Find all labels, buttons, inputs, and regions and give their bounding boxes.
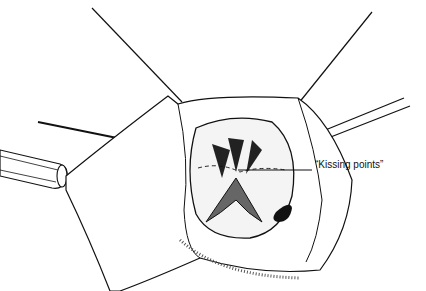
surgical-illustration: “Kissing points” <box>0 0 426 291</box>
kissing-points-label: “Kissing points” <box>315 159 383 170</box>
cannula-tube <box>0 150 67 188</box>
suture-line-left <box>92 8 182 102</box>
suture-line-right <box>298 12 372 104</box>
illustration-drawing <box>0 0 426 291</box>
